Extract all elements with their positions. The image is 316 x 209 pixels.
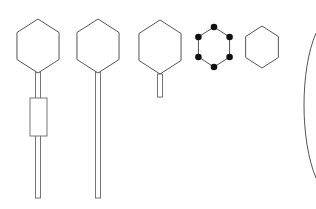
vertex-dot [195, 54, 202, 61]
vertex-dot [211, 64, 218, 71]
shapes-layer [17, 19, 316, 198]
hexagon-short-stem [139, 20, 181, 97]
hexagon-long-stem [77, 19, 119, 198]
hexagon [246, 26, 279, 68]
vertex-dot [226, 54, 233, 61]
vertex-dot [226, 34, 233, 41]
vertex-dot [195, 34, 202, 41]
hexagon [198, 27, 229, 67]
hexagon-plain [246, 26, 279, 68]
diagram-canvas [0, 0, 316, 209]
hexagon [139, 20, 181, 74]
hexagon-long-stem-with-box [17, 19, 59, 198]
vertex-dot [211, 24, 218, 31]
hexagon-dotted-vertices [195, 24, 233, 71]
curve-line [304, 33, 316, 178]
hexagon [77, 19, 119, 73]
stem [96, 72, 101, 198]
stem [158, 74, 163, 97]
hexagon [17, 19, 59, 73]
box [30, 98, 47, 136]
curve-line [304, 33, 316, 178]
